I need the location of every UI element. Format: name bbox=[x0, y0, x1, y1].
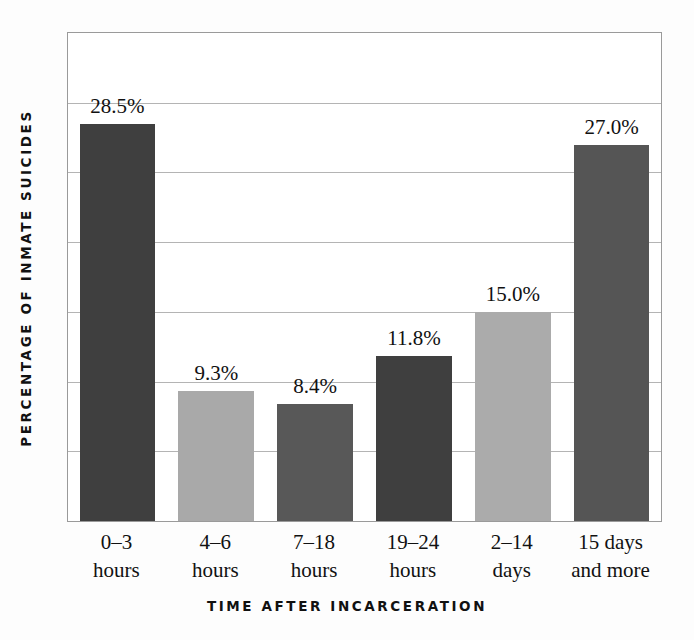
x-axis-tick-label: 15 daysand more bbox=[551, 528, 671, 584]
plot-area: 28.5%9.3%8.4%11.8%15.0%27.0% bbox=[67, 32, 662, 522]
bar[interactable] bbox=[277, 404, 353, 521]
bar[interactable] bbox=[475, 312, 551, 521]
bar-chart-figure: PERCENTAGE OF INMATE SUICIDES 28.5%9.3%8… bbox=[0, 0, 694, 640]
bar[interactable] bbox=[178, 391, 254, 521]
x-axis-title: TIME AFTER INCARCERATION bbox=[0, 598, 694, 614]
tick-label-line-1: 4–6 bbox=[200, 530, 232, 554]
tick-label-line-1: 2–14 bbox=[491, 530, 533, 554]
x-axis-tick-labels: 0–3hours4–6hours7–18hours19–24hours2–14d… bbox=[67, 528, 662, 590]
bar-value-label: 27.0% bbox=[542, 115, 682, 140]
bar-value-label: 11.8% bbox=[344, 326, 484, 351]
tick-label-line-1: 7–18 bbox=[293, 530, 335, 554]
bar[interactable] bbox=[376, 356, 452, 521]
bar-value-label: 28.5% bbox=[47, 94, 187, 119]
tick-label-line-1: 0–3 bbox=[101, 530, 133, 554]
bar[interactable] bbox=[574, 145, 650, 521]
y-axis-title-container: PERCENTAGE OF INMATE SUICIDES bbox=[0, 32, 52, 524]
bar[interactable] bbox=[80, 124, 156, 521]
tick-label-line-1: 15 days bbox=[578, 530, 643, 554]
bar-value-label: 15.0% bbox=[443, 282, 583, 307]
bar-value-label: 8.4% bbox=[245, 374, 385, 399]
bars-group: 28.5%9.3%8.4%11.8%15.0%27.0% bbox=[68, 33, 661, 521]
tick-label-line-1: 19–24 bbox=[387, 530, 440, 554]
tick-label-line-2: and more bbox=[551, 556, 671, 584]
y-axis-title: PERCENTAGE OF INMATE SUICIDES bbox=[18, 109, 34, 446]
